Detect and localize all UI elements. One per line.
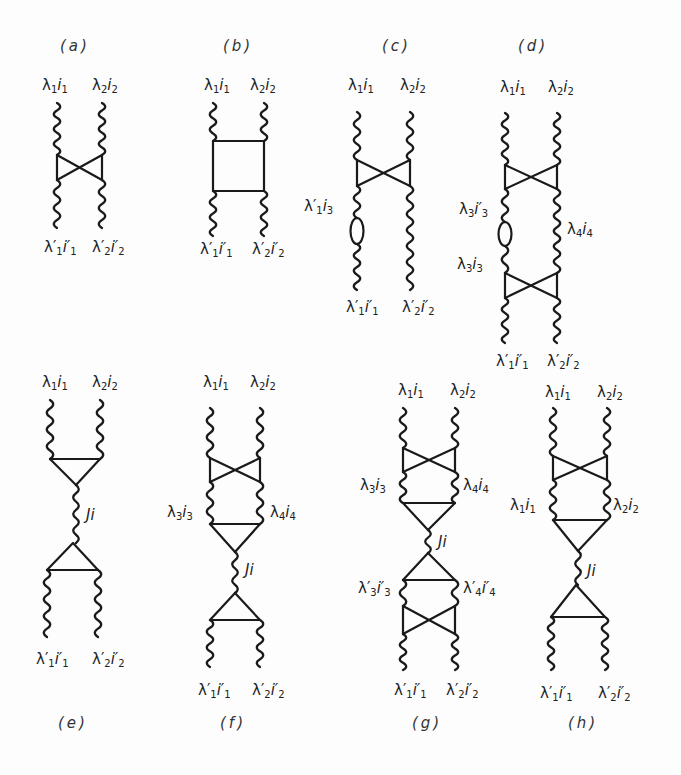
panel-h-top-label: λ2i2 bbox=[597, 385, 623, 402]
panel-b-top-label: λ1i1 bbox=[204, 78, 230, 95]
panel-c-bottom-label: λ′1i′1 bbox=[346, 300, 379, 317]
wavy-propagator bbox=[54, 103, 60, 155]
wavy-propagator bbox=[400, 634, 406, 670]
wavy-propagator bbox=[354, 112, 360, 160]
wavy-propagator bbox=[400, 472, 406, 503]
panel-g-side-label: λ4i4 bbox=[463, 478, 489, 495]
panel-e-top-label: λ1i1 bbox=[42, 375, 68, 392]
wavy-propagator bbox=[207, 620, 213, 667]
panel-d-bottom-label: λ′2i′2 bbox=[547, 354, 580, 371]
panel-e-bottom-label: λ′2i′2 bbox=[92, 652, 125, 669]
panel-h-bottom-label: λ′2i′2 bbox=[598, 686, 631, 703]
panel-d-top-label: λ1i1 bbox=[500, 80, 526, 97]
panel-g-side-label: λ′4i′4 bbox=[463, 581, 496, 598]
wavy-propagator bbox=[550, 408, 556, 456]
wavy-propagator bbox=[210, 191, 216, 236]
panel-e-bottom-label: λ′1i′1 bbox=[36, 652, 69, 669]
caption-h: (h) bbox=[568, 714, 598, 732]
wavy-propagator bbox=[502, 246, 508, 273]
triangle-vertex bbox=[50, 459, 100, 485]
panel-c-top-label: λ2i2 bbox=[400, 78, 426, 95]
feynman-diagram-figure: (a) (b) (c) (d) (e) (f) (g) (h) λ1i1λ2i2… bbox=[0, 0, 681, 775]
triangle-vertex bbox=[403, 553, 455, 580]
wavy-propagator bbox=[407, 112, 413, 160]
wavy-propagator bbox=[47, 400, 53, 459]
panel-c-diagram bbox=[351, 112, 414, 290]
panel-b-bottom-label: λ′1i′1 bbox=[200, 242, 233, 259]
panel-a-bottom-label: λ′1i′1 bbox=[44, 240, 77, 257]
panel-h-side-label: λ1i1 bbox=[510, 498, 536, 515]
wavy-propagator bbox=[452, 408, 458, 448]
wavy-propagator bbox=[554, 189, 560, 273]
caption-e: (e) bbox=[58, 714, 88, 732]
panel-e-top-label: λ2i2 bbox=[92, 375, 118, 392]
wavy-propagator bbox=[400, 408, 406, 448]
wavy-propagator bbox=[354, 244, 360, 290]
wavy-propagator bbox=[257, 482, 263, 524]
panel-f-exchange-label: Ji bbox=[245, 563, 254, 578]
panel-g-bottom-label: λ′2i′2 bbox=[446, 683, 479, 700]
caption-c: (c) bbox=[382, 37, 411, 55]
wavy-propagator bbox=[407, 186, 413, 290]
triangle-vertex bbox=[403, 503, 455, 530]
panel-g-side-label: λ′3i′3 bbox=[358, 581, 391, 598]
caption-g: (g) bbox=[412, 714, 442, 732]
caption-f: (f) bbox=[220, 714, 246, 732]
wavy-propagator bbox=[550, 480, 556, 520]
panel-g-top-label: λ1i1 bbox=[398, 383, 424, 400]
wavy-propagator bbox=[257, 620, 263, 667]
wavy-propagator bbox=[261, 103, 267, 141]
panel-d-top-label: λ2i2 bbox=[548, 80, 574, 97]
wavy-propagator bbox=[554, 113, 560, 165]
wavy-propagator bbox=[73, 485, 79, 543]
wavy-propagator bbox=[602, 617, 608, 670]
wavy-propagator bbox=[207, 408, 213, 458]
panel-f-bottom-label: λ′2i′2 bbox=[252, 683, 285, 700]
panel-g-diagram bbox=[400, 408, 458, 670]
panel-c-bottom-label: λ′2i′2 bbox=[402, 300, 435, 317]
wavy-propagator bbox=[95, 570, 101, 637]
wavy-propagator bbox=[502, 113, 508, 165]
panel-c-top-label: λ1i1 bbox=[348, 78, 374, 95]
panel-f-side-label: λ3i3 bbox=[167, 505, 193, 522]
self-energy-loop bbox=[351, 218, 364, 244]
panel-d-bottom-label: λ′1i′1 bbox=[496, 354, 529, 371]
wavy-propagator bbox=[44, 570, 50, 637]
wavy-propagator bbox=[97, 400, 103, 459]
triangle-vertex bbox=[210, 593, 260, 620]
panel-h-exchange-label: Ji bbox=[587, 564, 596, 579]
caption-d: (d) bbox=[518, 37, 548, 55]
panel-a-bottom-label: λ′2i′2 bbox=[92, 240, 125, 257]
wavy-propagator bbox=[99, 180, 105, 228]
box-vertex bbox=[213, 141, 264, 191]
wavy-propagator bbox=[575, 551, 581, 585]
panel-f-top-label: λ1i1 bbox=[203, 375, 229, 392]
wavy-propagator bbox=[452, 580, 458, 606]
wavy-propagator bbox=[54, 180, 60, 228]
panel-a-top-label: λ1i1 bbox=[42, 78, 68, 95]
panel-c-side-label: λ′1i3 bbox=[304, 199, 333, 216]
wavy-propagator bbox=[554, 298, 560, 343]
wavy-propagator bbox=[257, 408, 263, 458]
panel-d-side-label: λ4i4 bbox=[567, 222, 593, 239]
wavy-propagator bbox=[604, 480, 610, 520]
wavy-propagator bbox=[400, 580, 406, 606]
triangle-vertex bbox=[47, 543, 98, 570]
wavy-propagator bbox=[502, 298, 508, 343]
panel-h-top-label: λ1i1 bbox=[545, 385, 571, 402]
panel-g-exchange-label: Ji bbox=[438, 535, 447, 550]
panel-a-top-label: λ2i2 bbox=[92, 78, 118, 95]
panel-a-diagram bbox=[54, 103, 105, 228]
wavy-propagator bbox=[452, 472, 458, 503]
caption-a: (a) bbox=[60, 37, 90, 55]
panel-b-bottom-label: λ′2i′2 bbox=[252, 242, 285, 259]
triangle-vertex bbox=[210, 524, 260, 552]
panel-h-bottom-label: λ′1i′1 bbox=[540, 686, 573, 703]
wavy-propagator bbox=[261, 191, 267, 236]
self-energy-loop bbox=[499, 222, 512, 246]
panel-g-side-label: λ3i3 bbox=[360, 478, 386, 495]
wavy-propagator bbox=[604, 408, 610, 456]
wavy-propagator bbox=[354, 186, 360, 218]
wavy-propagator bbox=[502, 189, 508, 222]
panel-g-bottom-label: λ′1i′1 bbox=[394, 683, 427, 700]
